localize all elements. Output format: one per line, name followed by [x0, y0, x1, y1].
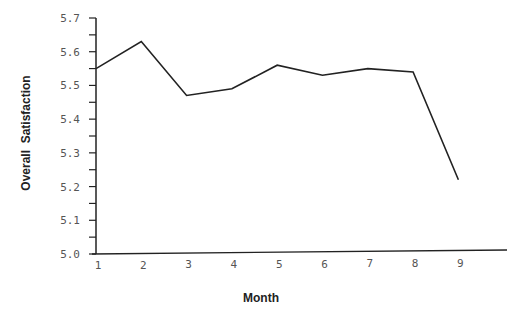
y-tick-label: 5.2 [60, 181, 80, 194]
y-tick-label: 5.5 [60, 79, 80, 92]
y-axis-title: Overall Satisfaction [19, 75, 33, 190]
y-axis: 5.05.15.25.35.45.55.65.7 [60, 12, 96, 261]
y-tick-label: 5.1 [60, 214, 80, 227]
y-tick-label: 5.6 [60, 46, 80, 59]
x-tick-label: 3 [185, 258, 192, 271]
x-tick-label: 7 [366, 257, 373, 270]
data-line [96, 42, 458, 180]
x-tick-label: 4 [231, 258, 238, 271]
x-axis-title: Month [243, 291, 279, 305]
x-tick-label: 9 [457, 257, 464, 270]
x-tick-label: 8 [412, 257, 419, 270]
x-tick-label: 1 [95, 259, 102, 272]
x-tick-label: 5 [276, 258, 283, 271]
x-tick-label: 6 [321, 258, 328, 271]
x-tick-label: 2 [140, 259, 147, 272]
y-tick-label: 5.7 [60, 12, 80, 25]
y-tick-label: 5.4 [60, 113, 80, 126]
line-chart: 5.05.15.25.35.45.55.65.7 123456789 Month… [0, 0, 521, 323]
y-tick-label: 5.3 [60, 147, 80, 160]
y-tick-label: 5.0 [60, 248, 80, 261]
x-axis: 123456789 [92, 250, 507, 272]
x-axis-line [92, 250, 507, 254]
